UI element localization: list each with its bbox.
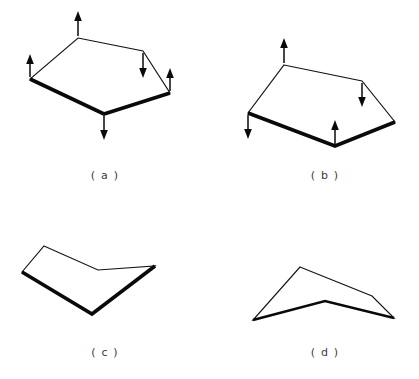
arrow-right-up — [166, 68, 174, 91]
panel-a-caption: ( a ) — [91, 169, 119, 182]
panel-b-sheet-outline — [248, 65, 395, 146]
arrow-top-up — [280, 38, 288, 63]
panel-c: ( c ) — [22, 246, 155, 359]
arrow-left-down — [244, 115, 252, 139]
panel-d: ( d ) — [253, 267, 394, 359]
figure-container: ( a ) — [0, 0, 419, 379]
panel-b-caption: ( b ) — [311, 169, 340, 182]
figure-svg: ( a ) — [0, 0, 419, 379]
panel-d-caption: ( d ) — [311, 346, 340, 359]
arrow-top-up — [74, 11, 82, 36]
arrow-left-up — [26, 54, 34, 77]
panel-a-sheet-outline — [30, 38, 170, 114]
panel-b: ( b ) — [244, 38, 395, 182]
panel-a: ( a ) — [26, 11, 174, 182]
arrow-bottom-down — [100, 116, 108, 140]
panel-c-caption: ( c ) — [91, 346, 119, 359]
